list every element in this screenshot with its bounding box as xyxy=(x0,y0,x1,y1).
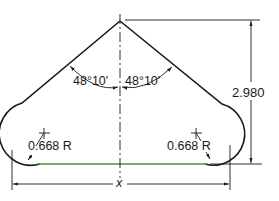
angle-label-left: 48°10' xyxy=(73,75,108,88)
right-radius-leader xyxy=(206,152,210,159)
radius-label-right: 0.668 R xyxy=(167,140,211,153)
radius-label-left: 0.668 R xyxy=(28,140,72,153)
drawing-svg xyxy=(0,0,279,201)
left-radius-leader xyxy=(28,155,32,160)
angle-label-right: 48°10' xyxy=(125,75,160,88)
width-label: x xyxy=(116,177,122,190)
height-label: 2.980 xyxy=(232,86,265,99)
technical-drawing: 48°10' 48°10' 2.980 0.668 R 0.668 R x xyxy=(0,0,279,201)
